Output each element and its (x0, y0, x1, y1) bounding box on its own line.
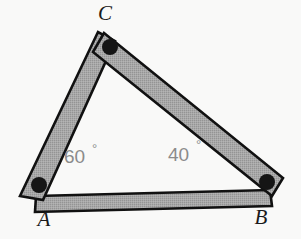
angle-degree-symbol-b: ° (196, 137, 201, 152)
rivet-vertex-a (31, 177, 47, 193)
rivet-vertex-b (259, 174, 275, 190)
vertex-label-a: A (36, 207, 51, 231)
angle-label-b: 40 (168, 144, 189, 165)
vertex-label-b: B (255, 205, 268, 229)
rivet-vertex-c (102, 39, 118, 55)
angle-label-a: 60 (64, 146, 85, 167)
geometry-figure: A B C 60 ° 40 ° (0, 0, 301, 239)
vertex-label-c: C (98, 1, 113, 25)
triangle-linkage-svg: A B C 60 ° 40 ° (0, 0, 301, 239)
angle-degree-symbol-a: ° (92, 141, 97, 156)
